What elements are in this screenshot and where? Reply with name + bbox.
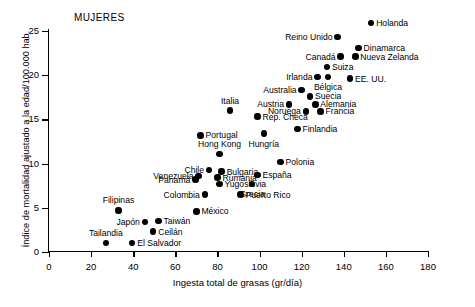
data-point[interactable] — [206, 167, 213, 174]
data-point-label: Japón — [116, 218, 139, 227]
y-axis-tick-label: 0 — [34, 247, 39, 257]
data-point[interactable] — [277, 159, 284, 166]
plot-area: HolandaReino UnidoDinamarcaCanadáNueva Z… — [49, 31, 428, 252]
data-point-label: México — [201, 207, 228, 216]
data-point-label: Hong Kong — [198, 140, 241, 149]
data-point-label: España — [262, 171, 291, 180]
y-axis-tick-label: 10 — [28, 159, 39, 169]
data-point-label: EE. UU. — [355, 74, 386, 83]
data-point[interactable] — [298, 87, 305, 94]
data-point-label: Rep. Checa — [262, 112, 307, 121]
data-point-label: Nueva Zelanda — [360, 52, 418, 61]
y-axis-tick-label: 25 — [28, 26, 39, 36]
chart-title: MUJERES — [74, 12, 125, 23]
data-point[interactable] — [115, 207, 122, 214]
x-axis-tick — [428, 251, 429, 257]
data-point-label: Holanda — [376, 19, 408, 28]
data-point-label: Yugoslavia — [225, 180, 267, 189]
data-point-label: Colombia — [163, 190, 199, 199]
data-point[interactable] — [314, 74, 321, 81]
data-point-label: Panamá — [158, 175, 190, 184]
data-point-label: Filipinas — [103, 197, 135, 206]
data-point[interactable] — [103, 240, 110, 247]
y-axis-tick-label: 5 — [34, 203, 39, 213]
data-point-label: Hungría — [248, 140, 279, 149]
data-point-label: Italia — [221, 97, 239, 106]
data-point[interactable] — [312, 101, 319, 108]
data-point[interactable] — [197, 132, 204, 139]
data-point[interactable] — [254, 172, 261, 179]
data-point[interactable] — [142, 219, 149, 226]
data-point-label: Taiwán — [163, 217, 190, 226]
data-point[interactable] — [325, 74, 332, 81]
data-point[interactable] — [294, 126, 301, 133]
data-point-label: Francia — [326, 107, 355, 116]
x-axis-tick-label: 160 — [378, 262, 394, 272]
data-point[interactable] — [347, 75, 354, 82]
x-axis-tick-label: 60 — [170, 262, 181, 272]
data-point-label: Ceilán — [158, 227, 182, 236]
data-point[interactable] — [317, 108, 324, 115]
x-axis-tick-label: 20 — [86, 262, 97, 272]
data-point-label: Reino Unido — [285, 33, 332, 42]
x-axis-tick-label: 80 — [212, 262, 223, 272]
data-point[interactable] — [368, 20, 375, 27]
data-point-label: Irlanda — [286, 73, 312, 82]
y-axis-tick — [42, 75, 48, 76]
x-axis-tick-label: 100 — [252, 262, 268, 272]
x-axis-tick-label: 180 — [420, 262, 436, 272]
data-point[interactable] — [307, 93, 314, 100]
data-point-label: Puerto Rico — [246, 190, 291, 199]
x-axis-tick-label: 0 — [46, 262, 51, 272]
data-point-label: Canadá — [306, 52, 336, 61]
y-axis-tick — [42, 31, 48, 32]
data-point-label: Tailandia — [89, 230, 123, 239]
y-axis-label: Índice de mortalidad ajustado a la edad/… — [21, 19, 31, 259]
data-point-label: Australia — [263, 86, 296, 95]
data-point-label: Finlandia — [302, 125, 337, 134]
x-axis-tick-label: 40 — [128, 262, 139, 272]
x-axis-label: Ingesta total de grasas (gr/día) — [0, 277, 475, 288]
data-point[interactable] — [334, 34, 341, 41]
x-axis-tick-label: 140 — [336, 262, 352, 272]
data-point-label: Suiza — [332, 63, 354, 72]
y-axis-tick — [42, 208, 48, 209]
data-point[interactable] — [193, 208, 200, 215]
data-point[interactable] — [355, 45, 362, 52]
data-point[interactable] — [261, 130, 268, 137]
data-point-label: El Salvador — [137, 239, 181, 248]
data-point[interactable] — [202, 191, 209, 198]
data-point[interactable] — [155, 218, 162, 225]
data-point-label: Polonia — [286, 158, 315, 167]
y-axis-tick-label: 15 — [28, 115, 39, 125]
data-point[interactable] — [129, 240, 136, 247]
scatter-chart-figure: MUJERES Índice de mortalidad ajustado a … — [0, 0, 475, 307]
data-point[interactable] — [337, 53, 344, 60]
data-point[interactable] — [216, 181, 223, 188]
y-axis-tick — [42, 119, 48, 120]
y-axis-tick — [42, 164, 48, 165]
data-point[interactable] — [227, 107, 234, 114]
data-point[interactable] — [324, 64, 331, 71]
data-point[interactable] — [352, 53, 359, 60]
x-axis-tick-label: 120 — [294, 262, 310, 272]
data-point[interactable] — [216, 151, 223, 158]
data-point[interactable] — [254, 113, 261, 120]
y-axis-tick-label: 20 — [28, 70, 39, 80]
data-point[interactable] — [192, 176, 199, 183]
data-point[interactable] — [150, 228, 157, 235]
data-point[interactable] — [237, 191, 244, 198]
